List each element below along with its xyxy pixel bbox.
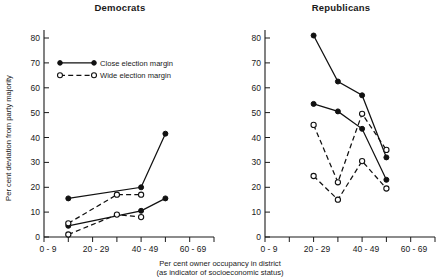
legend: Close election margin Wide election marg… xyxy=(58,59,174,80)
panel-democrats: Democrats Per cent deviation from party … xyxy=(4,2,214,254)
x-axis-label-line2: (as indicator of socioeconomic status) xyxy=(156,268,284,277)
series-rep-close-lower xyxy=(311,101,389,182)
y-ticks-right: 0 10 20 30 40 50 60 70 80 xyxy=(252,33,270,242)
y-tick-r-50: 50 xyxy=(252,108,262,118)
x-axis-label-line1: Per cent owner occupancy in district xyxy=(159,259,281,268)
series-dem-close-upper xyxy=(66,131,168,201)
y-tick-r-60: 60 xyxy=(252,83,262,93)
x-tick-r-0-9: 0 - 9 xyxy=(260,244,277,254)
legend-marker-wide-start xyxy=(58,73,63,78)
chart-svg: Democrats Per cent deviation from party … xyxy=(0,0,441,278)
x-axis-title: Per cent owner occupancy in district (as… xyxy=(156,259,284,277)
y-ticks-left: 0 10 20 30 40 50 60 70 80 xyxy=(31,33,49,242)
x-ticks-right: 0 - 9 20 - 29 40 - 49 60 - 69 xyxy=(260,237,435,254)
x-tick-40-49: 40 - 49 xyxy=(132,244,159,254)
x-tick-20-29: 20 - 29 xyxy=(83,244,110,254)
y-tick-r-10: 10 xyxy=(252,207,262,217)
y-axis-label: Per cent deviation from party majority xyxy=(4,75,13,201)
y-tick-r-20: 20 xyxy=(252,182,262,192)
series-rep-wide-lower xyxy=(311,159,389,203)
y-tick-r-70: 70 xyxy=(252,58,262,68)
series-rep-wide-upper xyxy=(311,111,389,185)
panel-republicans: Republicans 0 10 20 30 40 50 xyxy=(252,2,435,254)
x-tick-60-69: 60 - 69 xyxy=(180,244,207,254)
y-tick-r-80: 80 xyxy=(252,33,262,43)
y-tick-30: 30 xyxy=(31,157,41,167)
x-tick-r-40-49: 40 - 49 xyxy=(353,244,380,254)
panel-title-democrats: Democrats xyxy=(95,2,146,13)
y-tick-70: 70 xyxy=(31,58,41,68)
y-tick-40: 40 xyxy=(31,133,41,143)
x-tick-r-60-69: 60 - 69 xyxy=(401,244,428,254)
y-tick-20: 20 xyxy=(31,182,41,192)
y-tick-60: 60 xyxy=(31,83,41,93)
y-tick-r-30: 30 xyxy=(252,157,262,167)
y-tick-10: 10 xyxy=(31,207,41,217)
legend-marker-close-start xyxy=(58,61,63,66)
y-tick-0: 0 xyxy=(35,232,40,242)
x-tick-0-9: 0 - 9 xyxy=(39,244,56,254)
figure-root: Democrats Per cent deviation from party … xyxy=(0,0,441,278)
series-rep-close-upper xyxy=(311,33,389,160)
legend-marker-wide-end xyxy=(92,73,97,78)
y-tick-80: 80 xyxy=(31,33,41,43)
x-tick-r-20-29: 20 - 29 xyxy=(304,244,331,254)
y-tick-r-40: 40 xyxy=(252,133,262,143)
y-tick-r-0: 0 xyxy=(256,232,261,242)
y-tick-50: 50 xyxy=(31,108,41,118)
x-ticks-left: 0 - 9 20 - 29 40 - 49 60 - 69 xyxy=(39,237,214,254)
panel-title-republicans: Republicans xyxy=(312,2,371,13)
legend-label-close: Close election margin xyxy=(100,59,173,68)
legend-marker-close-end xyxy=(92,61,97,66)
legend-label-wide: Wide election margin xyxy=(100,71,171,80)
